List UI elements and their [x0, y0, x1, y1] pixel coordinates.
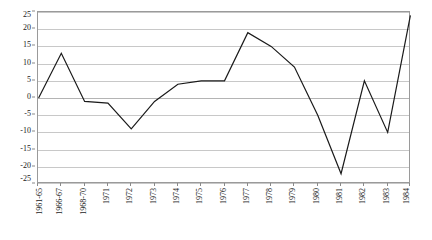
x-tick-mark-1 [60, 183, 61, 186]
y-tick-mark-25 [32, 11, 35, 12]
x-tick-mark-6 [177, 183, 178, 186]
x-tick-mark-16 [409, 183, 410, 186]
plot-area [37, 11, 410, 183]
y-tick-mark--15 [32, 148, 35, 149]
x-tick-mark-13 [340, 183, 341, 186]
y-tick-mark-0 [32, 97, 35, 98]
x-tick-label-12: 1980 [313, 188, 321, 204]
x-tick-label-5: 1973 [150, 188, 158, 204]
y-tick-label-0: 0 [27, 93, 31, 101]
x-tick-label-7: 1975 [196, 188, 204, 204]
x-tick-mark-5 [154, 183, 155, 186]
y-axis: 2520151050-5-10-15-20-25 [0, 11, 35, 183]
series-1-polyline [39, 15, 411, 173]
x-tick-label-13: 1981 [336, 188, 344, 204]
y-tick-label-20: 20 [23, 24, 31, 32]
y-tick-mark-10 [32, 62, 35, 63]
x-tick-label-9: 1977 [243, 188, 251, 204]
x-tick-mark-8 [224, 183, 225, 186]
x-tick-label-6: 1974 [173, 188, 181, 204]
x-tick-label-2: 1968-70 [80, 188, 88, 215]
y-tick-mark-15 [32, 45, 35, 46]
y-tick-mark--10 [32, 131, 35, 132]
x-tick-label-1: 1966-67 [56, 188, 64, 215]
x-tick-mark-15 [387, 183, 388, 186]
x-tick-mark-2 [84, 183, 85, 186]
x-tick-label-10: 1978 [266, 188, 274, 204]
x-tick-mark-11 [293, 183, 294, 186]
x-tick-label-16: 1984 [403, 188, 411, 204]
x-tick-mark-14 [363, 183, 364, 186]
x-tick-label-11: 1979 [289, 188, 297, 204]
x-tick-mark-7 [200, 183, 201, 186]
x-tick-label-4: 1972 [126, 188, 134, 204]
y-tick-mark-5 [32, 79, 35, 80]
x-tick-mark-0 [37, 183, 38, 186]
y-tick-label--5: -5 [24, 110, 31, 118]
x-tick-mark-3 [107, 183, 108, 186]
x-tick-label-3: 1971 [103, 188, 111, 204]
y-tick-label-10: 10 [23, 59, 31, 67]
y-tick-label--10: -10 [20, 127, 31, 135]
y-tick-mark--20 [32, 165, 35, 166]
x-axis: 1961-651966-671968-701971197219731974197… [37, 183, 410, 240]
x-tick-mark-4 [130, 183, 131, 186]
y-tick-label-25: 25 [23, 11, 31, 19]
y-tick-mark-20 [32, 28, 35, 29]
y-tick-label--25: -25 [20, 175, 31, 183]
x-tick-label-0: 1961-65 [36, 188, 44, 215]
x-tick-label-15: 1983 [383, 188, 391, 204]
series-line-group [38, 12, 411, 184]
y-tick-mark--25 [32, 183, 35, 184]
y-tick-label--20: -20 [20, 162, 31, 170]
x-tick-label-8: 1976 [220, 188, 228, 204]
x-tick-mark-9 [247, 183, 248, 186]
y-tick-label-15: 15 [23, 41, 31, 49]
x-tick-mark-12 [317, 183, 318, 186]
x-tick-label-14: 1982 [359, 188, 367, 204]
x-tick-mark-10 [270, 183, 271, 186]
y-tick-label-5: 5 [27, 76, 31, 84]
y-tick-mark--5 [32, 114, 35, 115]
line-chart: 2520151050-5-10-15-20-25 1961-651966-671… [0, 0, 432, 240]
y-tick-label--15: -15 [20, 145, 31, 153]
